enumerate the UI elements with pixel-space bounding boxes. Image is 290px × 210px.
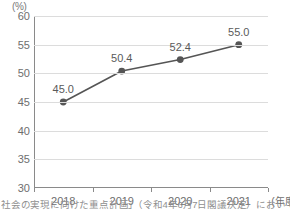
x-axis-tick-mark	[93, 188, 94, 192]
y-axis-tick-label: 60	[18, 11, 30, 22]
y-axis-tick-label: 55	[18, 39, 30, 50]
data-point-label: 45.0	[53, 84, 74, 95]
x-axis-tick-mark	[210, 188, 211, 192]
gridline	[34, 16, 268, 17]
y-axis-tick-label: 35	[18, 154, 30, 165]
y-axis-tick-label: 50	[18, 68, 30, 79]
gridline	[34, 45, 268, 46]
x-axis-tick-mark	[34, 188, 35, 192]
data-point-label: 55.0	[228, 27, 249, 38]
y-axis-tick-label: 30	[18, 183, 30, 194]
y-axis-tick-label: 40	[18, 125, 30, 136]
plot-area: (年度) 60555045403530201820192020202145.05…	[34, 16, 268, 188]
line-chart-figure: (%) (年度) 6055504540353020182019202020214…	[0, 0, 290, 210]
data-point-marker	[177, 56, 184, 63]
gridline	[34, 131, 268, 132]
data-point-label: 52.4	[170, 42, 191, 53]
x-axis-tick-mark	[268, 188, 269, 192]
x-axis-tick-mark	[151, 188, 152, 192]
data-point-label: 50.4	[111, 53, 132, 64]
figure-caption: 社会の実現に向けた重点計画」（令和4年6月7日閣議決定）において、出典）	[1, 200, 290, 210]
gridline	[34, 73, 268, 74]
gridline	[34, 102, 268, 103]
y-axis-tick-label: 45	[18, 97, 30, 108]
gridline	[34, 159, 268, 160]
